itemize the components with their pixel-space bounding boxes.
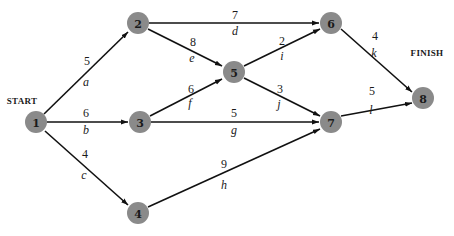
edge-f bbox=[150, 79, 222, 116]
edge-c-activity: c bbox=[81, 168, 87, 182]
edge-b-duration: 6 bbox=[83, 106, 89, 120]
edge-k-duration: 4 bbox=[372, 29, 378, 43]
edge-labels: 5 a 6 b 4 c 7 d 8 e 6 f 5 g 9 h 2 i 3 j … bbox=[81, 8, 378, 192]
edge-l bbox=[341, 103, 412, 116]
node-4: 4 bbox=[127, 202, 149, 224]
edge-e bbox=[148, 29, 222, 66]
edge-a-duration: 5 bbox=[84, 54, 90, 68]
node-8: 8 bbox=[412, 87, 434, 109]
edge-d-duration: 7 bbox=[232, 8, 238, 22]
edge-h-activity: h bbox=[221, 178, 227, 192]
node-2: 2 bbox=[127, 12, 149, 34]
node-6: 6 bbox=[320, 12, 342, 34]
edge-j-activity: j bbox=[275, 97, 281, 111]
edge-h-duration: 9 bbox=[221, 157, 227, 171]
edge-k-activity: k bbox=[371, 46, 377, 60]
edge-f-duration: 6 bbox=[188, 82, 194, 96]
edge-e-activity: e bbox=[189, 51, 195, 65]
edge-j-duration: 3 bbox=[277, 82, 283, 96]
edge-g-activity: g bbox=[231, 123, 237, 137]
edge-f-activity: f bbox=[188, 96, 193, 110]
edge-h bbox=[148, 129, 320, 207]
node-6-label: 6 bbox=[327, 18, 335, 31]
edges bbox=[44, 23, 412, 207]
edge-e-duration: 8 bbox=[190, 35, 196, 49]
edge-d-activity: d bbox=[232, 24, 239, 38]
node-5-label: 5 bbox=[230, 67, 238, 80]
start-label: START bbox=[7, 96, 38, 106]
node-4-label: 4 bbox=[134, 208, 142, 221]
edge-a bbox=[44, 32, 128, 114]
edge-g-duration: 5 bbox=[231, 106, 237, 120]
node-8-label: 8 bbox=[419, 93, 427, 106]
node-2-label: 2 bbox=[134, 18, 142, 31]
node-1: 1 bbox=[25, 111, 47, 133]
node-7-label: 7 bbox=[327, 117, 335, 130]
node-3-label: 3 bbox=[136, 117, 144, 130]
edge-l-duration: 5 bbox=[369, 84, 375, 98]
activity-network-diagram: 5 a 6 b 4 c 7 d 8 e 6 f 5 g 9 h 2 i 3 j … bbox=[0, 0, 454, 236]
edge-b-activity: b bbox=[83, 123, 89, 137]
edge-a-activity: a bbox=[83, 75, 89, 89]
node-3: 3 bbox=[129, 111, 151, 133]
node-5: 5 bbox=[223, 61, 245, 83]
node-1-label: 1 bbox=[32, 117, 40, 130]
edge-i-activity: i bbox=[280, 49, 283, 63]
finish-label: FINISH bbox=[411, 48, 444, 58]
node-7: 7 bbox=[320, 111, 342, 133]
edge-i-duration: 2 bbox=[279, 34, 285, 48]
edge-c-duration: 4 bbox=[82, 147, 88, 161]
